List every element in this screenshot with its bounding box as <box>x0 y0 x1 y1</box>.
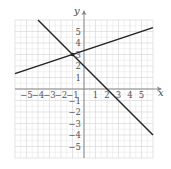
y-tick-label: 4 <box>76 38 81 48</box>
y-tick-label: −4 <box>68 130 81 140</box>
x-tick-label: 2 <box>104 90 109 100</box>
x-tick-label: 5 <box>139 90 144 100</box>
coordinate-plane: −5−4−3−2−11234554321−1−2−3−4−5 x y <box>0 0 171 169</box>
y-tick-label: −2 <box>68 107 81 117</box>
y-tick-label: −1 <box>68 96 81 106</box>
y-tick-label: 1 <box>76 73 81 83</box>
y-tick-label: 5 <box>76 27 81 37</box>
y-tick-label: 3 <box>76 50 81 60</box>
y-tick-label: 2 <box>76 61 81 71</box>
x-tick-label: 1 <box>93 90 98 100</box>
y-tick-label: −3 <box>68 119 81 129</box>
intersection-point <box>71 53 75 57</box>
x-axis-label: x <box>158 87 164 98</box>
x-tick-label: 3 <box>116 90 121 100</box>
y-tick-label: −5 <box>68 142 81 152</box>
y-axis-label: y <box>73 5 80 16</box>
x-tick-label: 4 <box>127 90 132 100</box>
